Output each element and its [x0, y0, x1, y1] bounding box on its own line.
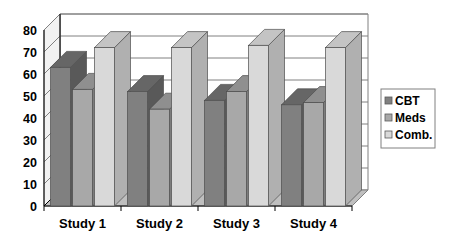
legend-label[interactable]: Meds [395, 111, 426, 125]
x-axis-category-label: Study 1 [59, 216, 106, 231]
y-axis-tick-labels: 01020304050607080 [23, 24, 37, 214]
y-axis-tick-label: 30 [23, 134, 37, 148]
x-axis-category-label: Study 2 [136, 216, 183, 231]
y-axis-tick-label: 80 [23, 24, 37, 38]
bar-3d[interactable] [326, 32, 362, 206]
y-axis-tick-label: 40 [23, 112, 37, 126]
legend-swatch [385, 131, 392, 138]
y-axis-tick-label: 0 [30, 200, 37, 214]
y-axis-tick-label: 70 [23, 46, 37, 60]
chart-legend[interactable]: CBTMedsComb. [381, 89, 435, 148]
x-axis-category-label: Study 4 [290, 216, 338, 231]
legend-label[interactable]: Comb. [395, 128, 432, 142]
y-axis-tick-label: 60 [23, 68, 37, 82]
y-axis-tick-label: 20 [23, 156, 37, 170]
bar-3d[interactable] [172, 32, 208, 206]
bar-3d[interactable] [249, 29, 285, 206]
x-axis-ticks [44, 206, 352, 211]
legend-swatch [385, 97, 392, 104]
bar-3d[interactable] [95, 32, 131, 206]
x-axis-category-label: Study 3 [213, 216, 260, 231]
legend-label[interactable]: CBT [395, 94, 420, 108]
y-axis-tick-label: 10 [23, 178, 37, 192]
y-axis-tick-label: 50 [23, 90, 37, 104]
chart-container: 01020304050607080 Study 1Study 2Study 3S… [0, 0, 452, 250]
legend-swatch [385, 114, 392, 121]
bar-chart-3d: 01020304050607080 Study 1Study 2Study 3S… [0, 0, 452, 250]
x-axis-category-labels: Study 1Study 2Study 3Study 4 [59, 216, 338, 231]
